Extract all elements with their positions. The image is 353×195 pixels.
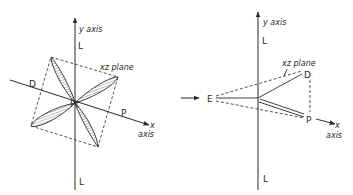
right-panel: y axis L L xz plane E D P x axis: [181, 12, 342, 190]
right-double-line-a: [260, 99, 304, 114]
petal-top-left: [51, 57, 75, 103]
right-e-label: E: [207, 94, 213, 104]
left-l-bottom-label: L: [79, 177, 84, 187]
right-x-axis-label-x: x: [334, 121, 340, 130]
right-y-axis-label: y axis: [262, 18, 286, 27]
left-x-axis-label-x: x: [149, 121, 155, 130]
right-plane-label: xz plane: [281, 59, 316, 68]
left-d-label: D: [29, 79, 36, 89]
right-x-axis-label-axis: axis: [326, 131, 342, 140]
left-y-axis-label: y axis: [78, 25, 102, 34]
left-p-label: P: [121, 108, 127, 118]
petal-bottom-right: [75, 103, 98, 147]
left-x-axis-label-axis: axis: [138, 130, 154, 139]
right-plane-leader: [284, 69, 287, 76]
left-center-label: Pt: [70, 99, 79, 109]
left-plane-label: xz plane: [99, 63, 134, 72]
left-panel: y axis L L xz plane D P Pt x axis: [10, 18, 155, 190]
right-p-label: P: [306, 115, 312, 125]
right-dash-e-d: [216, 71, 302, 96]
petal-bottom-left: [31, 103, 75, 126]
right-x-axis: [316, 119, 335, 124]
right-l-top-label: L: [262, 36, 267, 46]
right-d-label: D: [304, 70, 311, 80]
right-l-bottom-label: L: [263, 174, 268, 184]
left-l-top-label: L: [78, 41, 83, 51]
right-double-line-b: [259, 102, 304, 117]
diagram-figure: y axis L L xz plane D P Pt x axis y axis…: [0, 0, 353, 195]
